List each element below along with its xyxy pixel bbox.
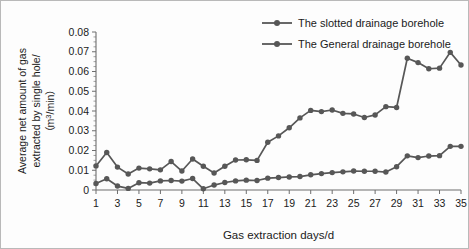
data-point-marker: [426, 66, 431, 71]
data-point-marker: [265, 175, 270, 180]
y-tick-label: 0: [83, 184, 89, 196]
y-tick-label: 0.01: [69, 164, 90, 176]
data-point-marker: [372, 112, 377, 117]
data-point-marker: [362, 169, 367, 174]
x-tick-label: 1: [93, 197, 99, 209]
y-tick-label: 0.04: [69, 105, 90, 117]
data-point-marker: [308, 172, 313, 177]
data-point-marker: [136, 180, 141, 185]
data-point-marker: [254, 158, 259, 163]
y-axis-title-line-3: （m3/min）: [44, 85, 56, 138]
x-tick-label: 9: [179, 197, 185, 209]
data-point-marker: [211, 182, 216, 187]
data-point-marker: [340, 169, 345, 174]
data-point-marker: [297, 115, 302, 120]
x-tick-label: 17: [262, 197, 274, 209]
data-point-marker: [147, 180, 152, 185]
data-point-marker: [126, 171, 131, 176]
data-point-marker: [265, 140, 270, 145]
data-point-marker: [158, 178, 163, 183]
data-point-marker: [319, 171, 324, 176]
data-point-marker: [136, 165, 141, 170]
chart-legend: The slotted drainage boreholeThe General…: [262, 17, 451, 50]
data-point-marker: [104, 176, 109, 181]
y-axis-title-line-1: Average net amount of gas: [16, 48, 28, 174]
data-point-marker: [415, 155, 420, 160]
x-tick-label: 7: [157, 197, 163, 209]
data-point-marker: [201, 164, 206, 169]
data-point-marker: [426, 153, 431, 158]
data-point-marker: [168, 159, 173, 164]
data-point-marker: [458, 144, 463, 149]
data-point-marker: [405, 153, 410, 158]
legend-label: The General drainage borehole: [298, 38, 451, 50]
data-point-marker: [362, 115, 367, 120]
data-point-marker: [126, 186, 131, 191]
y-axis-title-line-2: extracted by single hole/: [30, 54, 42, 167]
y-tick-label: 0.07: [69, 45, 90, 57]
data-point-marker: [179, 168, 184, 173]
x-axis-title: Gas extraction days/d: [223, 229, 334, 241]
x-tick-label: 33: [434, 197, 446, 209]
data-point-marker: [244, 177, 249, 182]
x-tick-label: 29: [391, 197, 403, 209]
data-point-marker: [190, 156, 195, 161]
x-tick-label: 13: [219, 197, 231, 209]
data-point-marker: [415, 60, 420, 65]
legend-item[interactable]: The slotted drainage borehole: [262, 17, 444, 29]
data-point-marker: [448, 144, 453, 149]
legend-item[interactable]: The General drainage borehole: [262, 38, 451, 50]
data-point-marker: [448, 50, 453, 55]
legend-marker-icon: [274, 41, 280, 47]
data-point-marker: [93, 181, 98, 186]
data-point-marker: [233, 157, 238, 162]
data-point-marker: [437, 65, 442, 70]
y-tick-label: 0.05: [69, 85, 90, 97]
x-axis-title-text: Gas extraction days/d: [223, 229, 334, 241]
data-point-marker: [158, 167, 163, 172]
data-point-marker: [329, 107, 334, 112]
data-point-marker: [383, 104, 388, 109]
data-point-marker: [319, 109, 324, 114]
data-point-marker: [211, 170, 216, 175]
legend-label: The slotted drainage borehole: [298, 17, 444, 29]
x-tick-label: 35: [455, 197, 467, 209]
x-tick-label: 15: [240, 197, 252, 209]
data-point-marker: [297, 174, 302, 179]
legend-marker-icon: [274, 20, 280, 26]
x-axis-tick-labels: 1357911131517192123252729313335: [93, 197, 467, 209]
data-point-marker: [383, 169, 388, 174]
x-tick-label: 25: [348, 197, 360, 209]
data-point-marker: [115, 183, 120, 188]
data-point-marker: [287, 125, 292, 130]
data-point-marker: [372, 169, 377, 174]
data-point-marker: [233, 178, 238, 183]
data-point-marker: [308, 108, 313, 113]
y-tick-label: 0.08: [69, 26, 90, 38]
y-axis-unit-suffix: /min）: [44, 85, 56, 115]
data-point-marker: [394, 164, 399, 169]
data-point-marker: [405, 56, 410, 61]
data-point-marker: [340, 111, 345, 116]
data-point-marker: [394, 105, 399, 110]
data-point-marker: [168, 178, 173, 183]
data-point-marker: [287, 174, 292, 179]
x-tick-label: 5: [136, 197, 142, 209]
axis-lines: [96, 32, 461, 190]
x-tick-label: 11: [198, 197, 209, 209]
data-point-marker: [254, 178, 259, 183]
data-point-marker: [458, 62, 463, 67]
data-point-marker: [147, 166, 152, 171]
y-axis-title: Average net amount of gasextracted by si…: [16, 48, 56, 174]
y-tick-label: 0.02: [69, 144, 90, 156]
data-point-marker: [115, 164, 120, 169]
data-point-marker: [276, 175, 281, 180]
x-tick-label: 27: [369, 197, 381, 209]
data-point-marker: [104, 150, 109, 155]
data-point-marker: [201, 186, 206, 191]
data-point-marker: [329, 170, 334, 175]
data-point-marker: [244, 157, 249, 162]
data-point-marker: [93, 163, 98, 168]
data-point-marker: [190, 176, 195, 181]
data-point-marker: [351, 111, 356, 116]
